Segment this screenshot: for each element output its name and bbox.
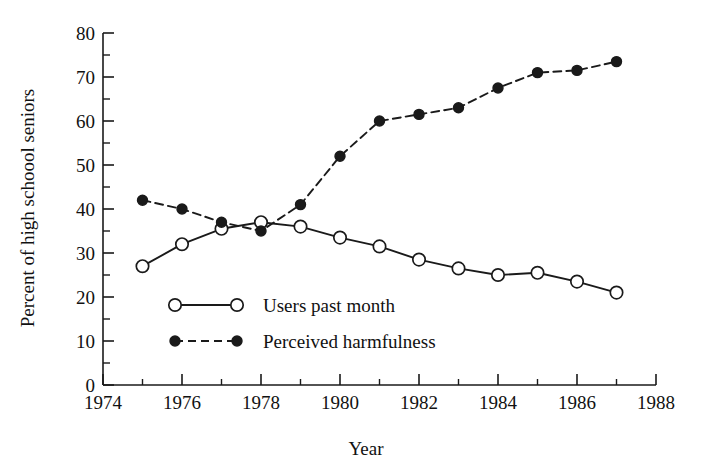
data-point: [492, 269, 504, 281]
data-point: [335, 151, 345, 161]
data-point: [334, 231, 346, 243]
x-tick-label: 1976: [163, 392, 201, 413]
data-point: [493, 83, 503, 93]
legend-label: Perceived harmfulness: [263, 331, 436, 352]
data-point: [571, 275, 583, 287]
data-point: [452, 262, 464, 274]
data-point: [296, 200, 306, 210]
x-tick-label: 1988: [637, 392, 675, 413]
data-point: [531, 267, 543, 279]
data-point: [375, 116, 385, 126]
legend-label: Users past month: [263, 295, 395, 316]
data-point: [612, 57, 622, 67]
line-chart: 01020304050607080 1974197619781980198219…: [0, 0, 718, 474]
x-axis-title: Year: [348, 438, 384, 459]
data-point: [533, 68, 543, 78]
data-point: [256, 226, 266, 236]
data-point: [136, 260, 148, 272]
data-point: [217, 217, 227, 227]
x-tick-label: 1980: [321, 392, 359, 413]
data-point: [572, 65, 582, 75]
legend-marker: [231, 299, 243, 311]
legend-marker: [169, 299, 181, 311]
x-tick-label: 1986: [558, 392, 596, 413]
y-tick-label: 50: [76, 155, 95, 176]
legend-marker: [232, 336, 242, 346]
data-point: [413, 253, 425, 265]
y-tick-label: 10: [76, 331, 95, 352]
data-point: [176, 238, 188, 250]
chart-figure: 01020304050607080 1974197619781980198219…: [0, 0, 718, 474]
data-point: [454, 103, 464, 113]
x-tick-label: 1978: [242, 392, 280, 413]
y-tick-label: 70: [76, 67, 95, 88]
data-point: [138, 195, 148, 205]
y-tick-label: 30: [76, 243, 95, 264]
data-point: [610, 286, 622, 298]
x-tick-label: 1974: [84, 392, 123, 413]
y-axis-title: Percent of high schoool seniors: [17, 89, 38, 328]
y-tick-label: 20: [76, 287, 95, 308]
data-point: [373, 240, 385, 252]
y-tick-label: 40: [76, 199, 95, 220]
x-tick-label: 1982: [400, 392, 438, 413]
data-point: [294, 220, 306, 232]
y-tick-label: 60: [76, 111, 95, 132]
legend-marker: [170, 336, 180, 346]
data-point: [414, 109, 424, 119]
data-point: [177, 204, 187, 214]
x-tick-label: 1984: [479, 392, 518, 413]
y-tick-label: 80: [76, 23, 95, 44]
